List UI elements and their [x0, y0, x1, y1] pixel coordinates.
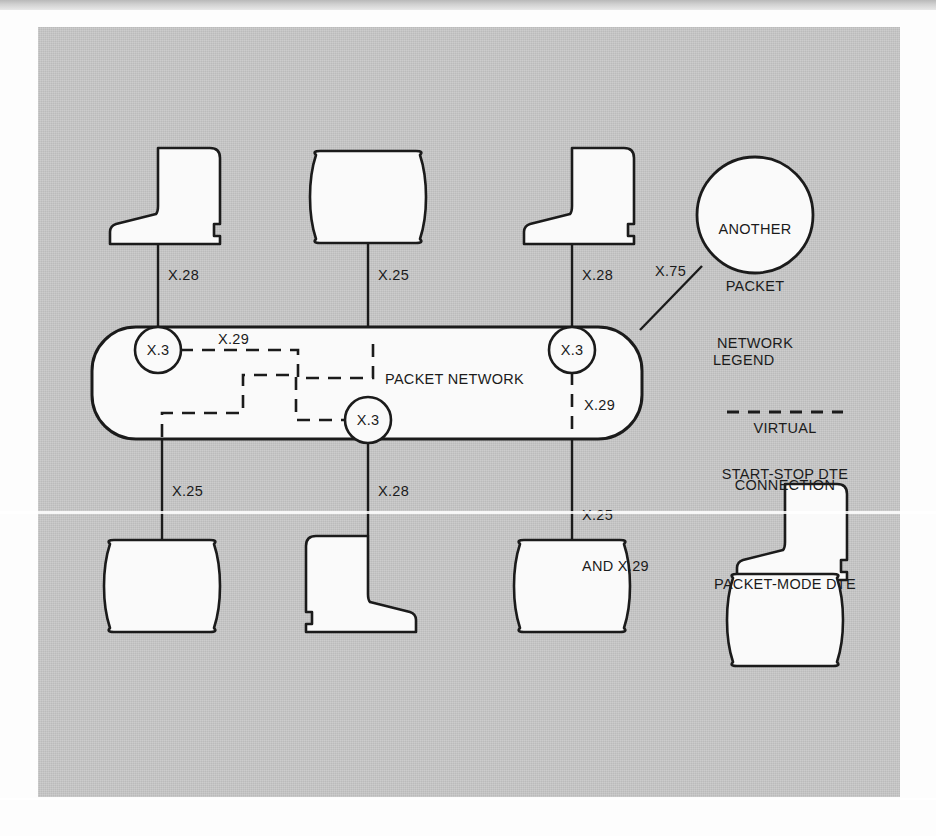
- another-network-line-2: PACKET: [695, 277, 815, 296]
- interface-label-x29-right: X.29: [584, 397, 615, 414]
- legend-start-stop-dte-label: START-STOP DTE: [695, 466, 875, 483]
- bottom-device-2[interactable]: [306, 536, 416, 632]
- top-device-3[interactable]: [524, 148, 634, 244]
- interface-label-bottom-3-line2: AND X.29: [582, 558, 649, 575]
- legend-packet-mode-dte-label: PACKET-MODE DTE: [690, 576, 880, 593]
- pad-right-label: X.3: [548, 342, 596, 359]
- interface-label-top-3: X.28: [582, 267, 613, 284]
- interface-label-bottom-1: X.25: [172, 483, 203, 500]
- top-device-2[interactable]: [310, 151, 426, 243]
- interface-label-top-2: X.25: [378, 267, 409, 284]
- interface-label-x75: X.75: [655, 263, 686, 280]
- legend-virtual-connection-label: VIRTUAL CONNECTION: [705, 381, 865, 533]
- interface-label-top-1: X.28: [168, 267, 199, 284]
- another-network-line-1: ANOTHER: [695, 220, 815, 239]
- interface-label-bottom-3: X.25 AND X.29: [582, 473, 649, 609]
- packet-network-label: PACKET NETWORK: [385, 371, 524, 388]
- another-network-line-3: NETWORK: [695, 334, 815, 353]
- legend-title: LEGEND: [713, 352, 774, 369]
- bottom-device-1[interactable]: [104, 540, 220, 632]
- legend-vc-line1: VIRTUAL: [705, 419, 865, 438]
- top-device-1[interactable]: [110, 148, 220, 244]
- interface-label-bottom-3-line1: X.25: [582, 507, 649, 524]
- interface-label-bottom-2: X.28: [378, 483, 409, 500]
- pad-middle-label: X.3: [344, 412, 392, 429]
- interface-label-x29-internal: X.29: [218, 331, 249, 348]
- pad-left-label: X.3: [134, 342, 182, 359]
- figure-page: PACKET NETWORK X.3 X.3 X.3 ANOTHER PACKE…: [0, 0, 936, 836]
